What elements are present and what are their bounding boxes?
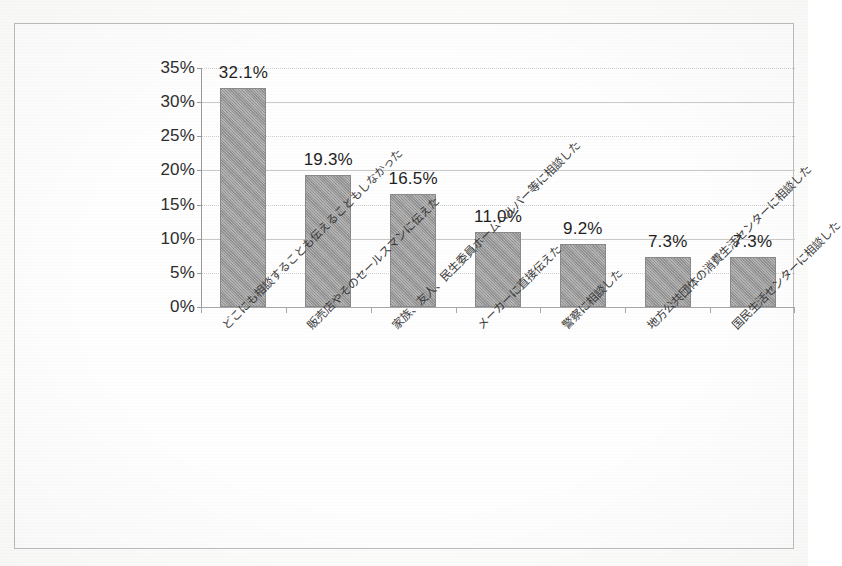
y-axis-tick-labels: 0%5%10%15%20%25%30%35% [133,68,195,307]
gridline-20% [201,170,795,171]
gridline-35% [201,68,795,69]
gridline-25% [201,136,795,137]
y-tick-label: 25% [133,126,195,146]
x-axis-tick [540,307,541,313]
y-axis-tick [197,136,202,137]
x-axis-tick [456,307,457,313]
chart-frame: 0%5%10%15%20%25%30%35% 32.1%19.3%16.5%11… [14,23,794,549]
bar-value-label: 9.2% [563,219,603,239]
gridline-15% [201,205,795,206]
bar [220,88,266,307]
x-axis-tick [286,307,287,313]
bar [390,194,436,307]
y-tick-label: 0% [133,297,195,317]
bar [730,257,776,307]
x-axis-tick [794,307,795,313]
y-tick-label: 35% [133,58,195,78]
plot-area: 32.1%19.3%16.5%11.0%9.2%7.3%7.3% [201,68,795,307]
x-axis-tick [371,307,372,313]
y-axis-tick [197,273,202,274]
bar-value-label: 7.3% [648,232,688,252]
bar [305,175,351,307]
y-axis-tick [197,102,202,103]
x-axis-ticks [201,307,795,313]
y-tick-label: 30% [133,92,195,112]
bar-value-label: 11.0% [474,207,522,227]
x-axis-tick [625,307,626,313]
x-axis-tick [710,307,711,313]
y-tick-label: 5% [133,263,195,283]
y-tick-label: 10% [133,229,195,249]
bar [560,244,606,307]
y-axis-tick [197,68,202,69]
y-tick-label: 20% [133,160,195,180]
bar [645,257,691,307]
y-axis-line [201,68,202,308]
x-axis-tick [201,307,202,313]
bar-value-label: 19.3% [304,150,353,170]
bar-value-label: 32.1% [219,63,268,83]
bar [475,232,521,307]
gridline-30% [201,102,795,103]
y-axis-tick [197,205,202,206]
bar-value-label: 16.5% [389,169,438,189]
y-tick-label: 15% [133,195,195,215]
y-axis-tick [197,170,202,171]
bar-value-label: 7.3% [733,232,773,252]
y-axis-tick [197,239,202,240]
